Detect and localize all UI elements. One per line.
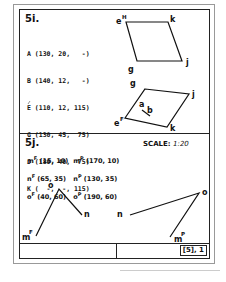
lower-parallelogram: [125, 89, 189, 127]
section-5i-drawings: e H k g j g j a b e F k: [20, 10, 209, 133]
worksheet-panel: 5i. A (130, 20, -) B (140, 12, -) E (110…: [19, 9, 210, 259]
label-j-lower: j: [191, 90, 195, 99]
footer-divider: [116, 244, 117, 258]
label-e-sup: H: [122, 14, 127, 20]
front-view-lines: [36, 189, 82, 236]
plan-label-n: n: [117, 210, 123, 219]
label-b: b: [147, 106, 153, 115]
section-5j-drawings: o n m F o n m P: [20, 134, 209, 243]
section-5j: 5j. SCALE: 1:20 mF (15, 10) mP (170, 10)…: [20, 134, 209, 243]
plan-label-o: o: [202, 188, 208, 197]
footer-bar: [5], 1: [20, 243, 209, 258]
label-k-lower: k: [170, 124, 176, 133]
label-g-lower: g: [130, 79, 136, 88]
front-label-n: n: [84, 210, 90, 219]
label-k: k: [170, 15, 176, 24]
upper-parallelogram: [126, 22, 182, 61]
label-e-lower-sup: F: [120, 116, 124, 122]
front-label-o: o: [48, 181, 54, 190]
plan-label-m-sup: P: [181, 231, 185, 237]
plan-view-lines: [130, 193, 199, 237]
front-label-m-sup: F: [29, 229, 33, 235]
label-a: a: [139, 100, 144, 109]
bottom-edge: [120, 270, 220, 271]
section-5i: 5i. A (130, 20, -) B (140, 12, -) E (110…: [20, 10, 209, 134]
label-j: j: [185, 58, 189, 67]
footer-reference: [5], 1: [180, 245, 207, 256]
label-g: g: [128, 65, 134, 74]
